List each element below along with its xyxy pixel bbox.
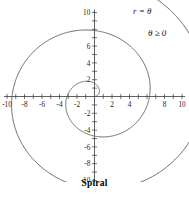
y-tick-label: -8 bbox=[84, 160, 90, 168]
y-tick-label: -6 bbox=[84, 144, 90, 152]
x-tick-label: -2 bbox=[74, 101, 80, 109]
y-tick-label: -2 bbox=[84, 110, 90, 118]
polar-plot: -10-8-6-4-22481010642-2-4-6-8-10 r = θ θ… bbox=[0, 0, 189, 182]
x-tick-label: -6 bbox=[39, 101, 45, 109]
x-tick-label: 8 bbox=[163, 101, 167, 109]
y-tick-label: 2 bbox=[87, 76, 91, 84]
x-tick-label: 2 bbox=[110, 101, 114, 109]
x-tick-label: 4 bbox=[128, 101, 132, 109]
figure-caption: Spiral bbox=[0, 178, 189, 188]
y-tick-label: 6 bbox=[87, 43, 91, 51]
x-tick-label: 10 bbox=[178, 101, 186, 109]
domain-constraint-label: θ ≥ 0 bbox=[148, 28, 167, 38]
y-tick-label: 4 bbox=[87, 60, 91, 68]
x-tick-label: -4 bbox=[57, 101, 63, 109]
spiral-figure: -10-8-6-4-22481010642-2-4-6-8-10 r = θ θ… bbox=[0, 0, 189, 200]
y-tick-label: 10 bbox=[83, 9, 91, 17]
x-tick-label: -10 bbox=[2, 101, 12, 109]
equation-label: r = θ bbox=[133, 6, 152, 16]
x-tick-label: -8 bbox=[22, 101, 28, 109]
